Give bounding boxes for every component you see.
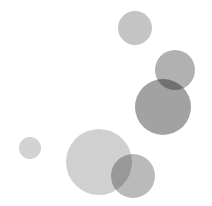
decorative-circles-canvas [0,0,212,206]
circle-top [118,11,152,45]
circle-large-right [135,79,191,135]
circle-small-left [19,137,41,159]
circle-small-bottom [111,154,155,198]
